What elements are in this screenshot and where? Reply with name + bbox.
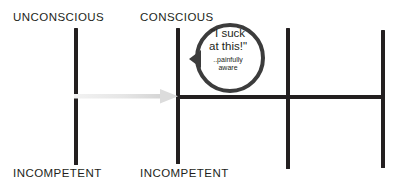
bubble-line-4: aware — [196, 64, 260, 72]
bubble-line-1: "I suck — [196, 27, 260, 40]
bubble-line-3: ..painfully — [196, 56, 260, 64]
bubble-line-2: at this!" — [196, 40, 260, 53]
label-unconscious-top: UNCONSCIOUS — [13, 12, 104, 24]
diagram-canvas: UNCONSCIOUS CONSCIOUS INCOMPETENT INCOMP… — [0, 0, 406, 190]
stage-divider-4 — [381, 30, 385, 168]
progress-arrow-icon — [70, 82, 185, 112]
label-incompetent-right: INCOMPETENT — [140, 168, 229, 180]
label-incompetent-left: INCOMPETENT — [13, 168, 102, 180]
speech-bubble-text: "I suck at this!" ..painfully aware — [196, 27, 260, 72]
